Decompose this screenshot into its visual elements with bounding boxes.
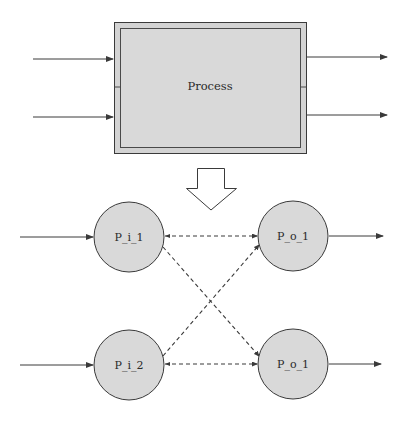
node-p-o-1-bottom: P_o_1 bbox=[258, 329, 328, 399]
node-label: P_i_2 bbox=[115, 359, 144, 372]
node-p-i-1: P_i_1 bbox=[94, 202, 164, 272]
process-block: Process bbox=[115, 23, 307, 154]
process-decomposition-diagram: Process P_i_1 P_i_2 P_o_1 P_o_1 bbox=[0, 0, 406, 423]
process-label: Process bbox=[187, 79, 232, 93]
node-label: P_i_1 bbox=[115, 231, 144, 244]
hollow-down-arrow-icon bbox=[187, 169, 237, 211]
node-p-o-1-top: P_o_1 bbox=[258, 201, 328, 271]
node-p-i-2: P_i_2 bbox=[94, 330, 164, 400]
edge-pi2-po1-top bbox=[163, 245, 259, 356]
dashed-connections bbox=[163, 236, 259, 364]
node-label: P_o_1 bbox=[277, 230, 309, 243]
node-label: P_o_1 bbox=[277, 358, 309, 371]
